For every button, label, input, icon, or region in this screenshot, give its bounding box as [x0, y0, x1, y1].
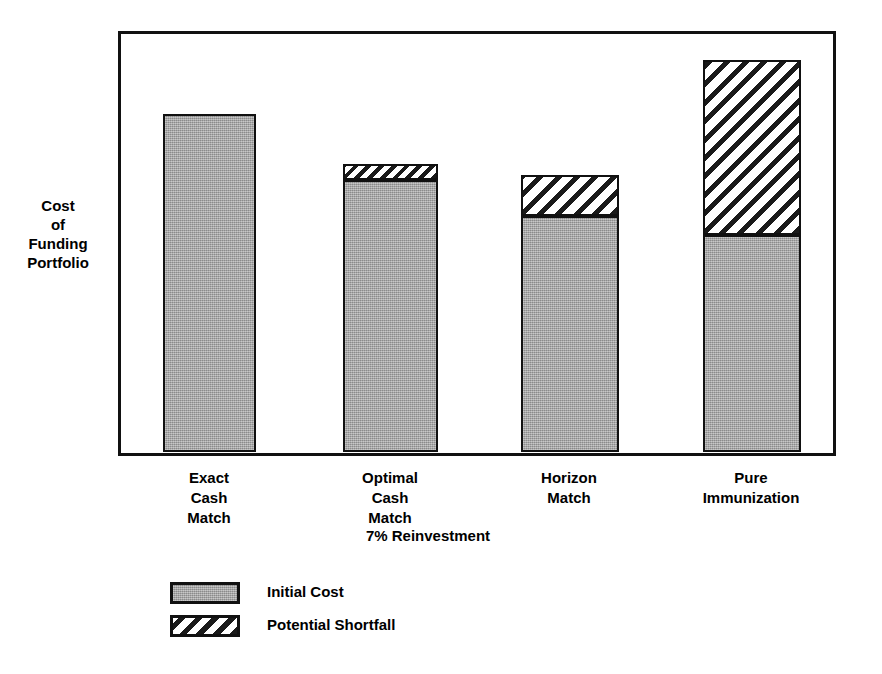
plot-area [118, 31, 836, 456]
x-axis-footnote: 7% Reinvestment [283, 527, 573, 544]
category-label-line-1: Exact [139, 468, 279, 488]
y-axis-title-line-3: Funding [4, 234, 112, 253]
category-label-pure-immunization: Pure Immunization [671, 468, 831, 508]
legend-label-initial-cost: Initial Cost [267, 583, 344, 600]
bar-horizon-match[interactable] [521, 34, 619, 452]
y-axis-title-line-4: Portfolio [4, 253, 112, 272]
bar-segment-initial-cost [521, 216, 619, 452]
legend-swatch-initial-cost [170, 582, 240, 604]
legend-label-potential-shortfall: Potential Shortfall [267, 616, 395, 633]
bar-segment-potential-shortfall [703, 60, 801, 235]
bar-segment-potential-shortfall [343, 164, 438, 180]
category-label-line-1: Optimal [320, 468, 460, 488]
category-label-line-3: Match [320, 508, 460, 528]
category-label-exact-cash-match: Exact Cash Match [139, 468, 279, 528]
bar-segment-initial-cost [703, 235, 801, 452]
y-axis-title-line-2: of [4, 215, 112, 234]
category-label-line-2: Immunization [671, 488, 831, 508]
legend-swatch-potential-shortfall [170, 615, 240, 637]
category-label-line-2: Match [499, 488, 639, 508]
y-axis-title: Cost of Funding Portfolio [4, 196, 112, 272]
category-label-optimal-cash-match: Optimal Cash Match [320, 468, 460, 528]
bar-segment-initial-cost [343, 180, 438, 452]
bar-segment-potential-shortfall [521, 175, 619, 216]
bar-optimal-cash-match[interactable] [343, 34, 438, 452]
bar-segment-initial-cost [163, 114, 256, 452]
chart-page: Cost of Funding Portfolio Exact Cash Mat… [0, 0, 882, 674]
bar-pure-immunization[interactable] [703, 34, 801, 452]
category-label-line-2: Cash [139, 488, 279, 508]
category-label-line-2: Cash [320, 488, 460, 508]
category-label-line-1: Horizon [499, 468, 639, 488]
category-label-line-3: Match [139, 508, 279, 528]
bar-exact-cash-match[interactable] [163, 34, 256, 452]
category-label-line-1: Pure [671, 468, 831, 488]
category-label-horizon-match: Horizon Match [499, 468, 639, 508]
y-axis-title-line-1: Cost [4, 196, 112, 215]
